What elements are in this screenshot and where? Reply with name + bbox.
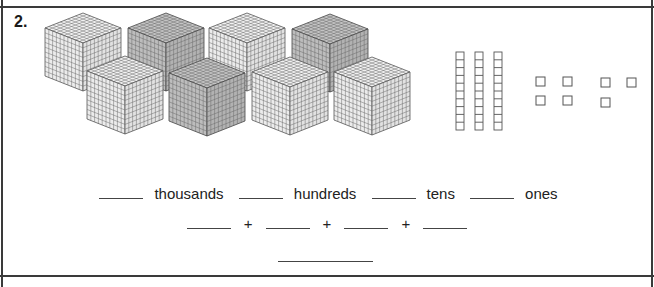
expanded-blank-3[interactable]: [344, 227, 388, 229]
unit-3: [601, 78, 610, 87]
tens-blank[interactable]: [372, 197, 416, 199]
expanded-blank-4[interactable]: [423, 227, 467, 229]
thousand-cube-7: [252, 57, 328, 135]
ten-rod-1: [456, 52, 464, 130]
plus-sign: +: [244, 215, 253, 232]
hundreds-blank[interactable]: [239, 197, 283, 199]
plus-sign: +: [323, 215, 332, 232]
unit-4: [627, 78, 636, 87]
tens-rods: [456, 52, 502, 130]
plus-sign: +: [401, 215, 410, 232]
ones-units: [536, 77, 636, 107]
ones-label: ones: [525, 185, 558, 202]
thousands-label: thousands: [154, 185, 223, 202]
unit-5: [536, 96, 545, 105]
place-value-row: thousands hundreds tens ones: [0, 185, 654, 202]
unit-2: [563, 77, 572, 86]
hundreds-label: hundreds: [294, 185, 357, 202]
ones-blank[interactable]: [470, 197, 514, 199]
unit-6: [563, 96, 572, 105]
expanded-blank-1[interactable]: [187, 227, 231, 229]
expanded-blank-2[interactable]: [266, 227, 310, 229]
base-ten-blocks: [0, 0, 654, 287]
expanded-form-row: +++: [0, 215, 654, 232]
unit-7: [601, 98, 610, 107]
tens-label: tens: [427, 185, 455, 202]
thousand-cube-6: [169, 58, 245, 136]
ten-rod-2: [475, 52, 483, 130]
standard-form-answer-line[interactable]: [278, 261, 373, 262]
ten-rod-3: [494, 52, 502, 130]
thousand-cube-5: [87, 56, 163, 134]
thousand-cube-8: [334, 57, 410, 135]
thousands-blank[interactable]: [99, 197, 143, 199]
unit-1: [536, 77, 545, 86]
